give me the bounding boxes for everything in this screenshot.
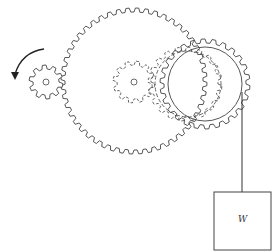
right-gear (160, 39, 250, 129)
center-pinion-hub (131, 79, 137, 85)
driver-gear (29, 65, 63, 99)
arrow-head-icon (11, 72, 19, 80)
center-pinion (113, 61, 155, 103)
weight-label: W (238, 214, 247, 224)
gear-diagram (0, 0, 272, 251)
